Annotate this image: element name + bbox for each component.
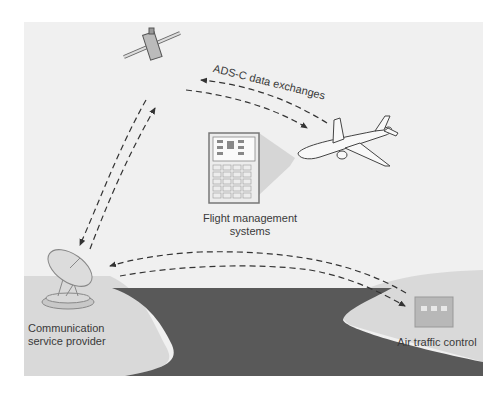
csp-label-line1: Communication — [28, 322, 118, 335]
csp-label-line2: service provider — [28, 335, 118, 348]
node-label-fms: Flight management systems — [187, 212, 313, 238]
node-label-csp: Communication service provider — [28, 322, 118, 348]
fms-label-line2: systems — [187, 225, 313, 238]
node-label-atc: Air traffic control — [392, 336, 482, 349]
diagram: ADS-C data exchanges Flight management s… — [0, 0, 502, 393]
fms-label-line1: Flight management — [187, 212, 313, 225]
atc-building-icon — [415, 297, 453, 327]
fms-icon — [209, 133, 259, 203]
